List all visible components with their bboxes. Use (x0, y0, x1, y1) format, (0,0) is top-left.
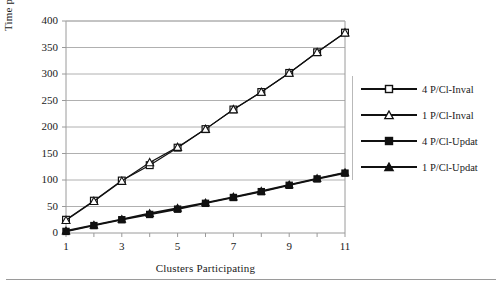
filled-triangle-marker-icon (361, 160, 417, 174)
chart-legend: 4 P/Cl-Inval 1 P/Cl-Inval 4 P/Cl-Updat (352, 76, 500, 180)
legend-label: 1 P/Cl-Updat (417, 162, 478, 173)
figure-container: Time per Barrier (μsec) Clusters Partici… (0, 0, 502, 293)
legend-item-1[interactable]: 1 P/Cl-Inval (361, 102, 500, 128)
legend-label: 4 P/Cl-Inval (417, 84, 474, 95)
legend-item-0[interactable]: 4 P/Cl-Inval (361, 76, 500, 102)
legend-label: 4 P/Cl-Updat (417, 136, 478, 147)
open-triangle-marker-icon (361, 108, 417, 122)
legend-item-3[interactable]: 1 P/Cl-Updat (361, 154, 500, 180)
open-square-marker-icon (361, 82, 417, 96)
figure-bottom-rule (6, 279, 496, 280)
legend-label: 1 P/Cl-Inval (417, 110, 474, 121)
filled-square-marker-icon (361, 134, 417, 148)
legend-item-2[interactable]: 4 P/Cl-Updat (361, 128, 500, 154)
